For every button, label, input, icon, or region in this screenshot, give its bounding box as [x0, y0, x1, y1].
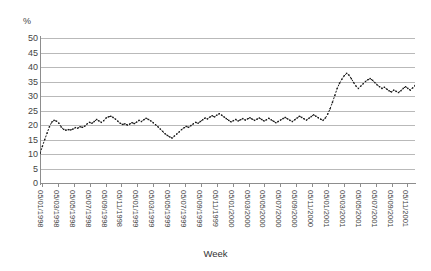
x-axis-tick-label: 05/05/2001 — [354, 190, 363, 228]
x-axis-tick-label: 05/01/2001 — [322, 190, 331, 228]
x-axis-tick-mark — [328, 183, 329, 187]
x-axis-tick-label: 05/05/1999 — [163, 190, 172, 228]
x-axis-tick-label: 05/05/1998 — [68, 190, 77, 228]
x-axis-tick-mark — [74, 183, 75, 187]
chart-container: % 05101520253035404550 05/01/199805/03/1… — [0, 0, 431, 271]
x-axis-tick-mark — [296, 183, 297, 187]
x-axis-tick-mark — [280, 183, 281, 187]
x-axis-tick-label: 05/07/2000 — [274, 190, 283, 228]
x-axis-tick-mark — [121, 183, 122, 187]
x-axis-tick-label: 05/11/1998 — [115, 190, 124, 227]
x-axis-tick-label: 05/11/2001 — [401, 190, 410, 227]
x-axis-tick-label: 05/09/1999 — [195, 190, 204, 228]
x-axis-tick-label: 05/09/1998 — [100, 190, 109, 228]
x-axis-title: Week — [0, 248, 431, 259]
x-axis-tick-label: 05/09/2001 — [386, 190, 395, 228]
x-axis-tick-label: 05/01/1998 — [36, 190, 45, 228]
x-axis-tick-mark — [169, 183, 170, 187]
x-axis-tick-mark — [312, 183, 313, 187]
x-axis-tick-mark — [137, 183, 138, 187]
x-axis-tick-mark — [90, 183, 91, 187]
x-axis-tick-mark — [360, 183, 361, 187]
x-axis-tick-mark — [407, 183, 408, 187]
x-axis-tick-mark — [264, 183, 265, 187]
x-axis-tick-label: 05/03/2001 — [338, 190, 347, 228]
x-axis-tick-label: 05/11/2000 — [306, 190, 315, 227]
x-axis-tick-label: 05/07/1999 — [179, 190, 188, 228]
x-axis-tick-mark — [217, 183, 218, 187]
x-axis-tick-label: 05/01/2000 — [227, 190, 236, 228]
x-axis-tick-mark — [153, 183, 154, 187]
x-axis-tick-mark — [185, 183, 186, 187]
x-axis-tick-mark — [392, 183, 393, 187]
x-axis-tick-labels: 05/01/199805/03/199805/05/199805/07/1998… — [0, 0, 431, 271]
x-axis-tick-mark — [233, 183, 234, 187]
x-axis-tick-label: 05/09/2000 — [290, 190, 299, 228]
x-axis-tick-mark — [249, 183, 250, 187]
x-axis-tick-label: 05/03/1999 — [147, 190, 156, 228]
x-axis-tick-label: 05/03/1998 — [52, 190, 61, 228]
x-axis-tick-mark — [106, 183, 107, 187]
x-axis-tick-label: 05/05/2000 — [258, 190, 267, 228]
x-axis-tick-mark — [344, 183, 345, 187]
x-axis-tick-label: 05/01/1999 — [131, 190, 140, 228]
x-axis-tick-label: 05/03/2000 — [243, 190, 252, 228]
x-axis-tick-mark — [58, 183, 59, 187]
x-axis-tick-mark — [376, 183, 377, 187]
x-axis-tick-mark — [201, 183, 202, 187]
x-axis-tick-label: 05/07/2001 — [370, 190, 379, 228]
x-axis-tick-mark — [42, 183, 43, 187]
x-axis-tick-label: 05/11/1999 — [211, 190, 220, 227]
x-axis-tick-label: 05/07/1998 — [84, 190, 93, 228]
